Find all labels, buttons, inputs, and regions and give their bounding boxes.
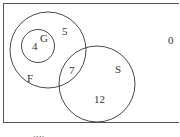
venn-diagram: G 4 5 F 7 S 12 0 (ii) [0,0,179,137]
region-g-only-value: 4 [32,40,38,52]
region-s-only-value: 12 [94,93,105,105]
set-s-circle [59,46,135,122]
universal-set-rectangle [4,4,180,123]
region-outside-value: 0 [168,34,174,46]
set-s-label: S [115,63,121,75]
set-f-label: F [27,72,33,84]
region-f-and-s-value: 7 [69,64,75,76]
set-g-circle [22,30,55,63]
set-f-circle [10,12,86,88]
region-f-only-value: 5 [62,25,68,37]
diagram-caption: (ii) [32,133,46,137]
set-g-label: G [40,32,48,44]
